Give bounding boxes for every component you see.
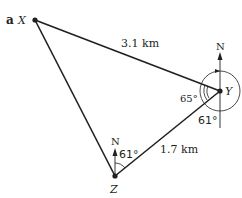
angle-label-61-y: 61°	[198, 114, 218, 127]
north-arrow-y-icon	[218, 52, 223, 60]
label-y: Y	[225, 85, 234, 98]
label-x: X	[17, 14, 27, 27]
angle-label-61-z: 61°	[119, 148, 139, 161]
part-label: a	[6, 13, 14, 27]
angle-arc-65	[204, 85, 207, 100]
side-xz	[35, 20, 115, 176]
point-x	[32, 17, 37, 22]
label-z: Z	[109, 183, 118, 196]
distance-xy: 3.1 km	[121, 37, 160, 50]
distance-zy: 1.7 km	[160, 143, 199, 156]
angle-label-65: 65°	[180, 93, 198, 104]
point-y	[217, 88, 222, 93]
bearing-arrowhead-icon	[215, 69, 220, 73]
side-xy	[35, 20, 220, 91]
bearing-diagram: a N X Y Z 3.1 km 1.7 km 65° 61° N 61°	[0, 0, 242, 198]
north-label-z: N	[111, 136, 120, 147]
north-arrow-z-icon	[113, 148, 118, 156]
angle-arc-61-z	[115, 163, 125, 168]
north-label-y: N	[216, 41, 225, 52]
angle-arc-65-inner	[207, 86, 209, 98]
